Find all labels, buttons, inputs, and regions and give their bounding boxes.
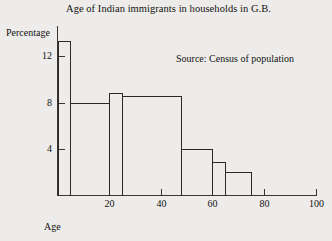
axes [57, 26, 316, 196]
histogram-figure: Age of Indian immigrants in households i… [0, 0, 332, 241]
x-tick-label: 40 [147, 199, 177, 209]
x-tick-label: 20 [95, 199, 125, 209]
x-tick-label: 80 [250, 199, 280, 209]
histogram-bar [182, 150, 213, 196]
histogram-bar [59, 42, 71, 196]
histogram-bar [71, 104, 110, 196]
x-tick-label: 60 [198, 199, 228, 209]
histogram-bars [59, 42, 252, 196]
histogram-bar [123, 97, 182, 196]
y-tick-label: 8 [30, 98, 52, 108]
histogram-bar [110, 94, 123, 196]
histogram-bar [213, 163, 226, 196]
y-tick-label: 4 [30, 144, 52, 154]
y-tick-label: 12 [30, 51, 52, 61]
x-tick-label: 100 [302, 199, 332, 209]
histogram-bar [226, 173, 252, 196]
